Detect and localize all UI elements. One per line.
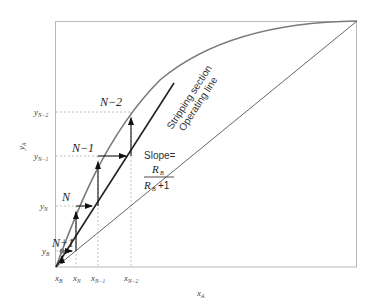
x-tick-labels: xB xN xN−1 xN−2 (54, 273, 138, 284)
y-axis-label: yA (16, 142, 27, 151)
stage-label-n: N (61, 190, 71, 204)
svg-text:B: B (152, 186, 156, 192)
svg-text:yB: yB (41, 246, 50, 257)
svg-text:yN−2: yN−2 (33, 107, 48, 118)
svg-text:xN: xN (72, 273, 81, 284)
svg-text:yN: yN (39, 201, 48, 212)
stage-label-n-minus-2: N−2 (99, 95, 122, 109)
svg-text:xB: xB (54, 273, 63, 284)
svg-text:xN−2: xN−2 (123, 273, 138, 284)
operating-line-label: Stripping section Operating line (164, 63, 223, 137)
y-tick-labels: yN−2 yN−1 yN yB (33, 107, 50, 257)
mccabe-thiele-diagram: N+1 N N−1 N−2 Stripping section Operatin… (0, 0, 372, 307)
diagonal-line (56, 21, 357, 267)
svg-text:B: B (160, 170, 164, 176)
svg-text:+1: +1 (158, 180, 170, 191)
svg-text:yA: yA (16, 142, 27, 151)
svg-text:yN−1: yN−1 (33, 151, 48, 162)
x-axis-label: xA (196, 288, 205, 299)
slope-label: Slope= (144, 150, 176, 161)
stage-label-n-minus-1: N−1 (71, 141, 94, 155)
svg-text:xN−1: xN−1 (90, 273, 105, 284)
svg-text:R: R (143, 179, 151, 191)
stage-label-n-plus-1: N+1 (51, 236, 74, 250)
slope-fraction: R B R B +1 (143, 163, 174, 192)
svg-text:R: R (151, 163, 159, 175)
